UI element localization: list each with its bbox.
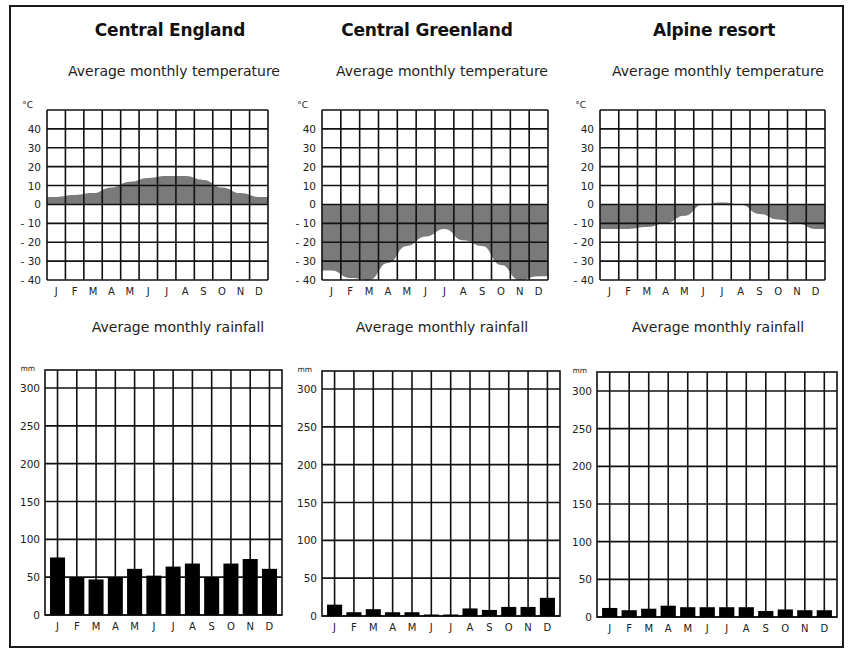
svg-text:M: M <box>92 621 101 632</box>
rainfall-bar <box>661 606 676 617</box>
svg-text:J: J <box>54 286 58 297</box>
svg-text:- 10: - 10 <box>574 217 595 229</box>
svg-text:100: 100 <box>20 533 40 545</box>
temperature-chart-central-greenland: 403020100- 10- 20- 30- 40°CJFMAMJJASOND <box>285 98 555 298</box>
rainfall-bar <box>327 605 342 616</box>
svg-text:S: S <box>486 622 492 633</box>
svg-text:mm: mm <box>20 364 35 373</box>
svg-text:°C: °C <box>297 100 308 110</box>
svg-text:J: J <box>724 623 728 634</box>
temperature-chart-alpine-resort: 403020100- 10- 20- 30- 40°CJFMAMJJASOND <box>560 98 840 298</box>
svg-text:M: M <box>89 286 98 297</box>
svg-text:0: 0 <box>585 611 592 623</box>
rain-subtitle-england: Average monthly rainfall <box>38 319 318 335</box>
svg-text:- 30: - 30 <box>21 255 42 267</box>
svg-text:0: 0 <box>310 610 317 622</box>
rainfall-bar <box>602 608 617 617</box>
rainfall-bar <box>521 607 536 616</box>
rainfall-bar <box>719 607 734 617</box>
svg-text:J: J <box>329 286 333 297</box>
rainfall-chart-central-england: 300250200150100500mmJFMAMJJASOND <box>10 355 290 645</box>
svg-text:J: J <box>146 286 150 297</box>
svg-text:- 20: - 20 <box>574 236 595 248</box>
svg-text:A: A <box>743 623 750 634</box>
svg-text:J: J <box>442 286 446 297</box>
rainfall-bar <box>758 611 773 617</box>
svg-text:- 40: - 40 <box>21 274 42 286</box>
rainfall-bar <box>366 609 381 616</box>
svg-text:A: A <box>662 286 669 297</box>
svg-text:- 10: - 10 <box>21 217 42 229</box>
svg-text:D: D <box>820 623 828 634</box>
rainfall-bar <box>385 612 400 616</box>
svg-text:°C: °C <box>22 100 33 110</box>
svg-text:D: D <box>535 286 543 297</box>
svg-text:J: J <box>332 622 336 633</box>
rainfall-bar <box>404 612 419 616</box>
svg-text:20: 20 <box>581 161 594 173</box>
rainfall-bar <box>641 609 656 617</box>
svg-text:150: 150 <box>572 498 592 510</box>
rainfall-chart-alpine-resort: 300250200150100500mmJFMAMJJASOND <box>560 355 845 645</box>
rainfall-bar <box>462 608 477 616</box>
svg-text:O: O <box>505 622 513 633</box>
svg-text:J: J <box>55 621 59 632</box>
svg-text:A: A <box>467 622 474 633</box>
svg-text:250: 250 <box>20 420 40 432</box>
svg-text:300: 300 <box>572 385 592 397</box>
svg-text:S: S <box>479 286 485 297</box>
rainfall-bar <box>778 609 793 617</box>
rainfall-bar <box>424 614 439 616</box>
svg-text:30: 30 <box>303 142 316 154</box>
svg-text:200: 200 <box>297 459 317 471</box>
svg-text:D: D <box>266 621 274 632</box>
svg-text:F: F <box>626 623 632 634</box>
svg-text:10: 10 <box>28 180 41 192</box>
svg-text:A: A <box>182 286 189 297</box>
svg-text:J: J <box>171 621 175 632</box>
rainfall-bar <box>680 607 695 617</box>
clipped-caption-strip <box>8 651 848 657</box>
svg-text:S: S <box>763 623 769 634</box>
svg-text:D: D <box>255 286 263 297</box>
svg-text:M: M <box>402 286 411 297</box>
svg-text:- 30: - 30 <box>574 255 595 267</box>
svg-text:200: 200 <box>572 460 592 472</box>
svg-text:N: N <box>246 621 253 632</box>
svg-text:40: 40 <box>303 123 316 135</box>
svg-text:A: A <box>108 286 115 297</box>
svg-text:40: 40 <box>28 123 41 135</box>
svg-text:A: A <box>460 286 467 297</box>
svg-text:50: 50 <box>579 573 592 585</box>
svg-text:100: 100 <box>297 534 317 546</box>
svg-text:N: N <box>524 622 531 633</box>
svg-text:30: 30 <box>581 142 594 154</box>
svg-text:0: 0 <box>34 198 41 210</box>
temp-subtitle-greenland: Average monthly temperature <box>302 63 582 79</box>
svg-text:20: 20 <box>28 161 41 173</box>
temp-subtitle-alpine: Average monthly temperature <box>578 63 852 79</box>
svg-text:F: F <box>74 621 80 632</box>
svg-text:30: 30 <box>28 142 41 154</box>
svg-text:J: J <box>607 623 611 634</box>
svg-text:A: A <box>384 286 391 297</box>
rainfall-bar <box>501 607 516 616</box>
rainfall-bar <box>622 610 637 617</box>
svg-text:O: O <box>497 286 505 297</box>
svg-text:M: M <box>683 623 692 634</box>
svg-text:A: A <box>737 286 744 297</box>
rainfall-bar <box>89 579 104 615</box>
svg-text:0: 0 <box>33 609 40 621</box>
svg-text:M: M <box>130 621 139 632</box>
svg-text:J: J <box>429 622 433 633</box>
svg-text:N: N <box>793 286 800 297</box>
svg-text:O: O <box>774 286 782 297</box>
svg-text:- 20: - 20 <box>21 236 42 248</box>
svg-text:200: 200 <box>20 458 40 470</box>
rainfall-bar <box>146 576 161 615</box>
rainfall-bar <box>739 607 754 617</box>
svg-text:J: J <box>423 286 427 297</box>
svg-text:F: F <box>625 286 631 297</box>
svg-text:10: 10 <box>303 180 316 192</box>
svg-text:0: 0 <box>309 198 316 210</box>
